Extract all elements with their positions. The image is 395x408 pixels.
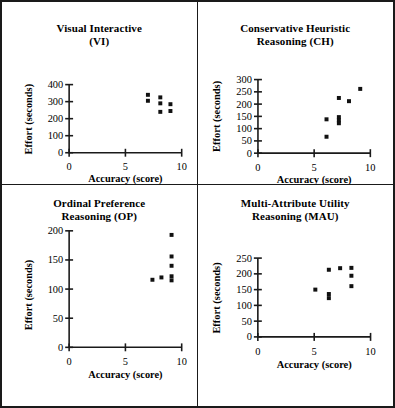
x-tick-label: 10: [365, 162, 375, 173]
data-point-marker: [324, 117, 328, 121]
x-axis-title: Accuracy (score): [276, 174, 351, 184]
data-point-marker: [170, 274, 174, 278]
y-tick-label: 200: [236, 99, 252, 110]
data-point-marker: [326, 268, 330, 272]
data-point-marker: [158, 110, 162, 114]
y-tick-label: 0: [58, 342, 63, 353]
x-tick-label: 5: [311, 162, 316, 173]
data-point-marker: [159, 275, 163, 279]
scatter-plot-op: 0501001502000510Accuracy (score)Effort (…: [2, 185, 197, 406]
y-tick-label: 100: [236, 123, 252, 134]
y-tick-label: 300: [48, 96, 64, 107]
y-tick-label: 100: [236, 300, 252, 311]
y-axis-title: Effort (seconds): [23, 84, 35, 155]
data-point-marker: [170, 254, 174, 258]
x-tick-label: 0: [255, 162, 260, 173]
y-tick-label: 100: [48, 284, 64, 295]
scatter-plot-mau: 0501001502002500510Accuracy (score)Effor…: [198, 185, 394, 406]
data-point-marker: [168, 102, 172, 106]
x-tick-label: 0: [255, 346, 260, 357]
data-point-marker: [336, 121, 340, 125]
data-point-marker: [146, 99, 150, 103]
y-tick-label: 50: [53, 313, 63, 324]
data-point-marker: [336, 96, 340, 100]
x-axis-title: Accuracy (score): [276, 359, 352, 371]
y-axis-title: Effort (seconds): [210, 262, 222, 334]
axis-lines: [69, 231, 182, 348]
x-tick-label: 0: [67, 162, 72, 173]
x-axis-title: Accuracy (score): [88, 369, 162, 381]
y-tick-label: 100: [48, 130, 64, 141]
data-point-marker: [170, 278, 174, 282]
data-point-marker: [346, 99, 350, 103]
x-tick-label: 10: [177, 356, 187, 367]
figure-container: Visual Interactive (VI) 0100200300400051…: [0, 0, 395, 408]
y-tick-label: 250: [236, 253, 252, 264]
x-tick-label: 5: [311, 346, 316, 357]
y-axis-title: Effort (seconds): [211, 80, 223, 152]
data-point-marker: [349, 284, 353, 288]
scatter-plot-ch: 0501001502002503000510Accuracy (score)Ef…: [198, 2, 394, 184]
y-tick-label: 150: [236, 284, 252, 295]
y-tick-label: 150: [236, 111, 252, 122]
x-tick-label: 10: [177, 162, 187, 173]
x-tick-label: 0: [67, 356, 72, 367]
axis-lines: [69, 85, 182, 153]
y-tick-label: 50: [241, 316, 251, 327]
x-tick-label: 5: [123, 356, 128, 367]
data-point-marker: [313, 288, 317, 292]
panel-conservative-heuristic: Conservative Heuristic Reasoning (CH) 05…: [198, 2, 394, 185]
y-tick-label: 250: [236, 86, 252, 97]
y-tick-label: 200: [236, 268, 252, 279]
y-tick-label: 300: [236, 74, 252, 85]
x-axis-title: Accuracy (score): [88, 173, 162, 184]
y-tick-label: 200: [48, 225, 64, 236]
data-point-marker: [324, 135, 328, 139]
data-point-marker: [326, 296, 330, 300]
data-point-marker: [170, 264, 174, 268]
data-point-marker: [326, 292, 330, 296]
scatter-plot-vi: 01002003004000510Accuracy (score)Effort …: [2, 2, 197, 184]
panel-ordinal-preference: Ordinal Preference Reasoning (OP) 050100…: [2, 185, 198, 406]
y-tick-label: 150: [48, 255, 64, 266]
y-tick-label: 0: [58, 147, 63, 158]
data-point-marker: [349, 266, 353, 270]
data-point-marker: [349, 274, 353, 278]
panel-visual-interactive: Visual Interactive (VI) 0100200300400051…: [2, 2, 198, 185]
data-point-marker: [358, 87, 362, 91]
x-tick-label: 10: [365, 346, 375, 357]
data-point-marker: [338, 266, 342, 270]
data-point-marker: [146, 93, 150, 97]
y-tick-label: 400: [48, 79, 64, 90]
y-tick-label: 0: [246, 331, 251, 342]
x-tick-label: 5: [123, 162, 128, 173]
data-point-marker: [170, 233, 174, 237]
axis-lines: [257, 258, 370, 337]
data-point-marker: [158, 101, 162, 105]
data-point-marker: [168, 109, 172, 113]
panel-grid: Visual Interactive (VI) 0100200300400051…: [2, 2, 393, 406]
axis-lines: [257, 80, 369, 154]
y-tick-label: 0: [246, 148, 251, 159]
y-tick-label: 50: [241, 135, 251, 146]
y-tick-label: 200: [48, 113, 64, 124]
panel-multi-attribute-utility: Multi-Attribute Utility Reasoning (MAU) …: [198, 185, 394, 406]
data-point-marker: [150, 278, 154, 282]
data-point-marker: [158, 95, 162, 99]
y-axis-title: Effort (seconds): [23, 260, 35, 331]
